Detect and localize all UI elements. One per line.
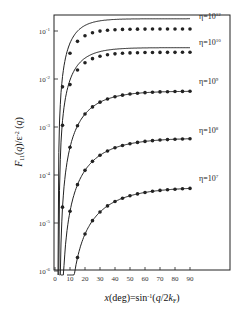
series-line (60, 91, 191, 275)
data-point (68, 146, 72, 150)
y-axis-ticks: 10-610-510-410-310-210-1 (39, 27, 58, 276)
series-line (67, 188, 190, 275)
data-point (121, 144, 125, 148)
data-point (143, 91, 147, 95)
data-point (158, 27, 162, 31)
data-point (61, 85, 65, 89)
data-point (68, 209, 72, 213)
series-label: η=107 (199, 174, 219, 183)
data-point (188, 137, 192, 141)
data-point (166, 51, 170, 55)
data-point (173, 137, 177, 141)
data-point (143, 27, 147, 31)
data-point (76, 256, 80, 260)
data-point (166, 138, 170, 142)
data-point (91, 31, 95, 35)
x-tick-label: 60 (142, 275, 150, 283)
data-point (188, 51, 192, 55)
data-point (128, 92, 132, 96)
series-labels: η=1012η=1010η=109η=108η=107 (199, 12, 221, 183)
data-point (181, 90, 185, 94)
series-line (58, 19, 190, 275)
plot-frame (54, 15, 230, 270)
data-point (91, 160, 95, 164)
series-label: η=1012 (199, 12, 221, 21)
data-point (98, 29, 102, 33)
data-point (91, 219, 95, 223)
data-point (173, 187, 177, 191)
data-point (136, 192, 140, 196)
data-point (68, 51, 72, 55)
data-point (151, 90, 155, 94)
x-tick-label: 30 (97, 275, 105, 283)
x-tick-label: 70 (157, 275, 165, 283)
chart-canvas: 0102030405060708090 10-610-510-410-310-2… (0, 0, 240, 313)
data-point (113, 28, 117, 32)
data-point (128, 27, 132, 31)
data-point (158, 90, 162, 94)
data-point (98, 54, 102, 58)
data-point (113, 95, 117, 99)
data-point (181, 187, 185, 191)
data-point (158, 51, 162, 55)
data-point (83, 34, 87, 38)
data-point (158, 189, 162, 193)
data-point (106, 28, 110, 32)
data-point (91, 57, 95, 61)
data-point (121, 28, 125, 32)
y-axis-title: F11(q)/ε-2 (q) (13, 117, 25, 168)
x-tick-label: 0 (53, 275, 57, 283)
x-tick-label: 40 (112, 275, 120, 283)
data-point (151, 190, 155, 194)
series-label: η=109 (199, 77, 219, 86)
data-point (166, 27, 170, 31)
y-tick-label: 10-3 (39, 123, 51, 132)
data-point (136, 51, 140, 55)
data-point (98, 210, 102, 214)
data-point (158, 138, 162, 142)
data-point (166, 90, 170, 94)
data-point (106, 97, 110, 101)
data-point (113, 146, 117, 150)
data-point (98, 100, 102, 104)
data-point (98, 153, 102, 157)
series-label: η=108 (199, 126, 219, 135)
data-point (76, 40, 80, 44)
series-group (58, 19, 192, 275)
data-point (121, 196, 125, 200)
data-point (173, 27, 177, 31)
data-point (143, 51, 147, 55)
x-axis-title: x(deg)=sin-1(q/2kF) (103, 292, 179, 304)
data-point (83, 232, 87, 236)
data-point (76, 124, 80, 128)
data-point (136, 91, 140, 95)
data-point (128, 194, 132, 198)
data-point (106, 204, 110, 208)
data-point (136, 27, 140, 31)
x-tick-label: 80 (172, 275, 180, 283)
data-point (76, 68, 80, 72)
y-tick-label: 10-4 (39, 171, 51, 180)
y-tick-label: 10-1 (39, 27, 51, 36)
series-line (59, 48, 190, 275)
data-point (83, 112, 87, 116)
data-point (91, 105, 95, 109)
data-point (151, 51, 155, 55)
data-point (173, 51, 177, 55)
y-tick-label: 10-5 (39, 219, 51, 228)
x-tick-label: 90 (187, 275, 195, 283)
data-point (61, 124, 65, 128)
data-point (128, 142, 132, 146)
data-point (76, 183, 80, 187)
data-point (83, 61, 87, 65)
data-point (113, 200, 117, 204)
y-tick-label: 10-6 (39, 267, 51, 276)
data-point (188, 90, 192, 94)
data-point (83, 169, 87, 173)
data-point (143, 191, 147, 195)
x-tick-label: 20 (82, 275, 90, 283)
series-line (61, 139, 190, 275)
y-tick-label: 10-2 (39, 75, 51, 84)
data-point (166, 188, 170, 192)
data-point (121, 93, 125, 97)
